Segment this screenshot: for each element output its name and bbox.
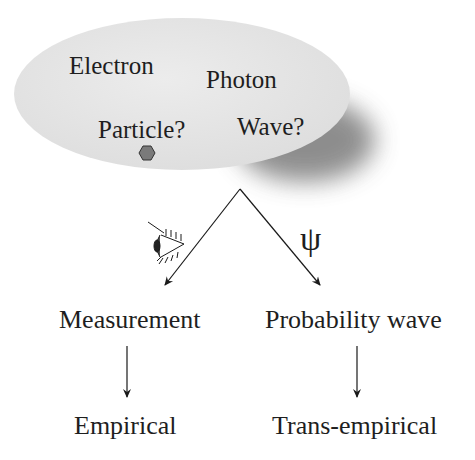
eye-icon — [148, 222, 184, 264]
label-empirical: Empirical — [74, 413, 177, 439]
label-trans-empirical: Trans-empirical — [272, 413, 437, 439]
label-wave: Wave? — [237, 114, 304, 139]
label-probability-wave: Probability wave — [265, 307, 442, 333]
label-electron: Electron — [69, 53, 154, 78]
label-measurement: Measurement — [59, 307, 201, 333]
wave-particle-diagram: Electron Photon Particle? Wave? ψ Measur… — [0, 0, 475, 460]
concept-cloud — [14, 18, 350, 170]
psi-symbol: ψ — [300, 222, 321, 256]
label-particle: Particle? — [98, 117, 185, 142]
particle-hexagon-icon — [139, 146, 155, 160]
label-photon: Photon — [206, 67, 277, 92]
